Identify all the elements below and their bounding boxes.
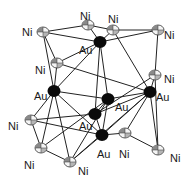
- atom-label: Ni: [80, 10, 90, 22]
- atom-label: Ni: [24, 159, 34, 171]
- atom-label: Ni: [164, 29, 174, 41]
- atom-label: Ni: [119, 148, 129, 160]
- atom-label: Au: [34, 90, 47, 102]
- au-ni-cluster-diagram: NiNiNiNiNiAuNiAuAuAuAuNiAuNiNiNiNi: [0, 0, 190, 183]
- atom-label: Au: [115, 101, 128, 113]
- au-atom-icon: [89, 108, 102, 120]
- bond-au1-au4: [95, 42, 100, 114]
- bond-ni4-ni6: [155, 30, 158, 75]
- au-atom-icon: [102, 93, 115, 105]
- atom-label: Au: [79, 120, 92, 132]
- ni-atom-icon: [35, 143, 47, 153]
- atom-label: Ni: [170, 152, 180, 164]
- bond-ni1-ni2: [43, 25, 88, 32]
- atom-label: Ni: [108, 13, 118, 25]
- au-atom-icon: [94, 36, 107, 48]
- atom-label: Au: [79, 44, 92, 56]
- atom-label: Ni: [8, 120, 18, 132]
- bond-au1-au3: [100, 42, 108, 99]
- au-atom-icon: [48, 85, 61, 97]
- ni-atom-icon: [152, 25, 164, 35]
- ni-atom-icon: [51, 58, 63, 68]
- ni-atom-icon: [64, 157, 76, 167]
- atom-label: Ni: [164, 73, 174, 85]
- bond-ni1-au1: [43, 32, 100, 42]
- ni-atom-icon: [149, 70, 161, 80]
- atom-label: Ni: [78, 165, 88, 177]
- ni-atom-icon: [107, 25, 119, 35]
- ni-atom-icon: [119, 128, 131, 138]
- ni-atom-icon: [152, 145, 164, 155]
- atom-label: Au: [97, 148, 110, 160]
- atom-label: Ni: [22, 26, 32, 38]
- ni-atom-icon: [25, 115, 37, 125]
- atom-label: Ni: [35, 64, 45, 76]
- au-atom-icon: [96, 129, 109, 141]
- bond-au5-ni8: [125, 92, 150, 133]
- au-atom-icon: [144, 86, 157, 98]
- ni-atom-icon: [37, 27, 49, 37]
- atom-label: Au: [156, 91, 169, 103]
